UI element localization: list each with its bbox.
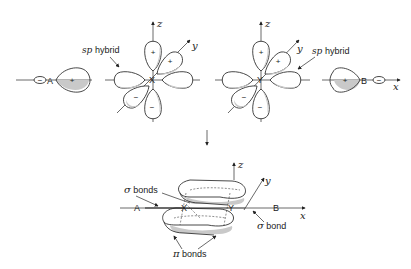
svg-text:+: + — [151, 48, 156, 57]
lobe-left — [114, 72, 145, 89]
atom-label-x: X — [181, 203, 187, 213]
svg-text:−: − — [150, 103, 155, 112]
sp-hybrid-label-x: sp hybrid — [82, 45, 119, 55]
sign: + — [343, 76, 348, 85]
atom-label-a: A — [47, 76, 53, 86]
axis-label-z: z — [264, 18, 271, 29]
atom-label-y: Y — [228, 203, 234, 213]
sigma-bond-label: σ bond — [257, 220, 286, 231]
pointer-arrow — [198, 236, 216, 249]
lobe-right — [162, 72, 193, 89]
atom-y-group: z y + + − — [215, 18, 349, 122]
lobe-right — [270, 72, 301, 89]
axis-label-x: x — [300, 210, 306, 221]
svg-text:+: + — [168, 57, 173, 66]
atom-label-a: A — [134, 203, 140, 213]
pi-bonds-label: π bonds — [172, 248, 207, 259]
atom-label-b: B — [273, 203, 279, 213]
atom-label-x: X — [149, 75, 155, 85]
axis-label-z: z — [237, 159, 244, 170]
sign: − — [38, 76, 43, 85]
axis-label-y: y — [296, 43, 303, 54]
sign: + — [70, 76, 75, 85]
svg-text:−: − — [134, 93, 139, 102]
atom-label-b: B — [361, 76, 367, 86]
axis-label-z: z — [156, 18, 163, 29]
svg-text:−: − — [242, 93, 247, 102]
pointer-arrow — [298, 57, 315, 69]
atom-a-group: − A + — [16, 68, 92, 92]
lobe-left — [222, 72, 253, 89]
orbital-hybridization-diagram: − A + z y + + — [0, 0, 411, 269]
sigma-bonds-label: σ bonds — [124, 184, 158, 195]
pi-bond-lower — [163, 208, 234, 235]
sp-hybrid-label-y: sp hybrid — [312, 46, 349, 56]
pointer-arrow — [110, 57, 119, 67]
axis-label-y: y — [191, 40, 198, 51]
pi-bond-upper — [178, 180, 245, 205]
atom-label-y: Y — [257, 75, 263, 85]
bonded-molecule: z y A X Y B x σ bonds — [120, 159, 306, 259]
sign: − — [377, 76, 382, 85]
axis-label-x: x — [393, 81, 399, 92]
atom-x-group: z y + + − − X — [82, 18, 200, 122]
atom-b-group: + B − x — [322, 68, 400, 92]
axis-label-y: y — [264, 175, 271, 186]
svg-text:+: + — [276, 57, 281, 66]
svg-text:−: − — [258, 103, 263, 112]
svg-text:+: + — [259, 48, 264, 57]
y-axis-arrow — [244, 178, 264, 210]
